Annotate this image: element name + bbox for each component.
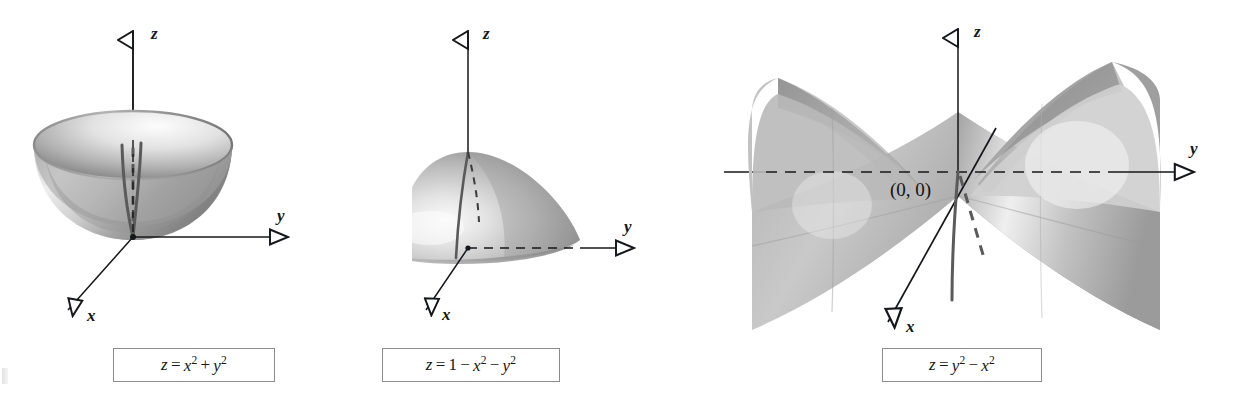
caption-2-lhs: z [426, 355, 433, 375]
three-quadric-surfaces-figure: z y x [0, 0, 1237, 402]
axis-label-x-3: x [906, 318, 915, 335]
caption-3-lhs: z [929, 355, 936, 375]
axis-label-y-1: y [277, 207, 285, 224]
caption-box-paraboloid-dome: z = 1 − x2 − y2 [382, 348, 560, 382]
caption-1-equals: = [168, 355, 184, 375]
caption-box-saddle: z = y2 − x2 [882, 348, 1042, 382]
panel-paraboloid-dome: z y x [412, 0, 682, 402]
paraboloid-dome-drawing [412, 0, 682, 402]
caption-3-equals: = [936, 355, 952, 375]
caption-2-term-y: y2 [502, 354, 516, 376]
caption-3-operator: − [965, 355, 981, 375]
caption-3-term-x: x2 [981, 354, 995, 376]
caption-2-term-one: 1 [448, 355, 457, 375]
caption-1-lhs: z [161, 355, 168, 375]
caption-box-paraboloid-bowl: z = x2 + y2 [113, 348, 275, 382]
axis-label-y-2: y [624, 218, 632, 235]
panel-saddle: z y x (0, 0) [682, 0, 1237, 402]
caption-2-term-x: x2 [473, 354, 487, 376]
axis-label-x-1: x [87, 307, 96, 324]
caption-1-term-y: y2 [213, 354, 227, 376]
axis-label-z-2: z [483, 25, 490, 42]
panel-paraboloid-bowl: z y x [0, 0, 412, 402]
caption-1-term-x: x2 [184, 354, 198, 376]
saddle-point-label: (0, 0) [890, 180, 931, 199]
saddle-drawing [682, 0, 1237, 402]
caption-2-operator-2: − [487, 355, 503, 375]
caption-2-equals: = [433, 355, 449, 375]
caption-3-term-y: y2 [952, 354, 966, 376]
caption-2-operator-1: − [457, 355, 473, 375]
axis-label-z-3: z [974, 23, 981, 40]
saddle-highlight-left [792, 171, 872, 239]
caption-1-operator: + [197, 355, 213, 375]
saddle-highlight-right [1025, 121, 1129, 209]
axis-label-z-1: z [151, 25, 158, 42]
paraboloid-bowl-drawing [0, 0, 412, 402]
axis-label-y-3: y [1190, 140, 1198, 157]
x-axis-1 [68, 237, 133, 310]
axis-label-x-2: x [442, 306, 451, 323]
